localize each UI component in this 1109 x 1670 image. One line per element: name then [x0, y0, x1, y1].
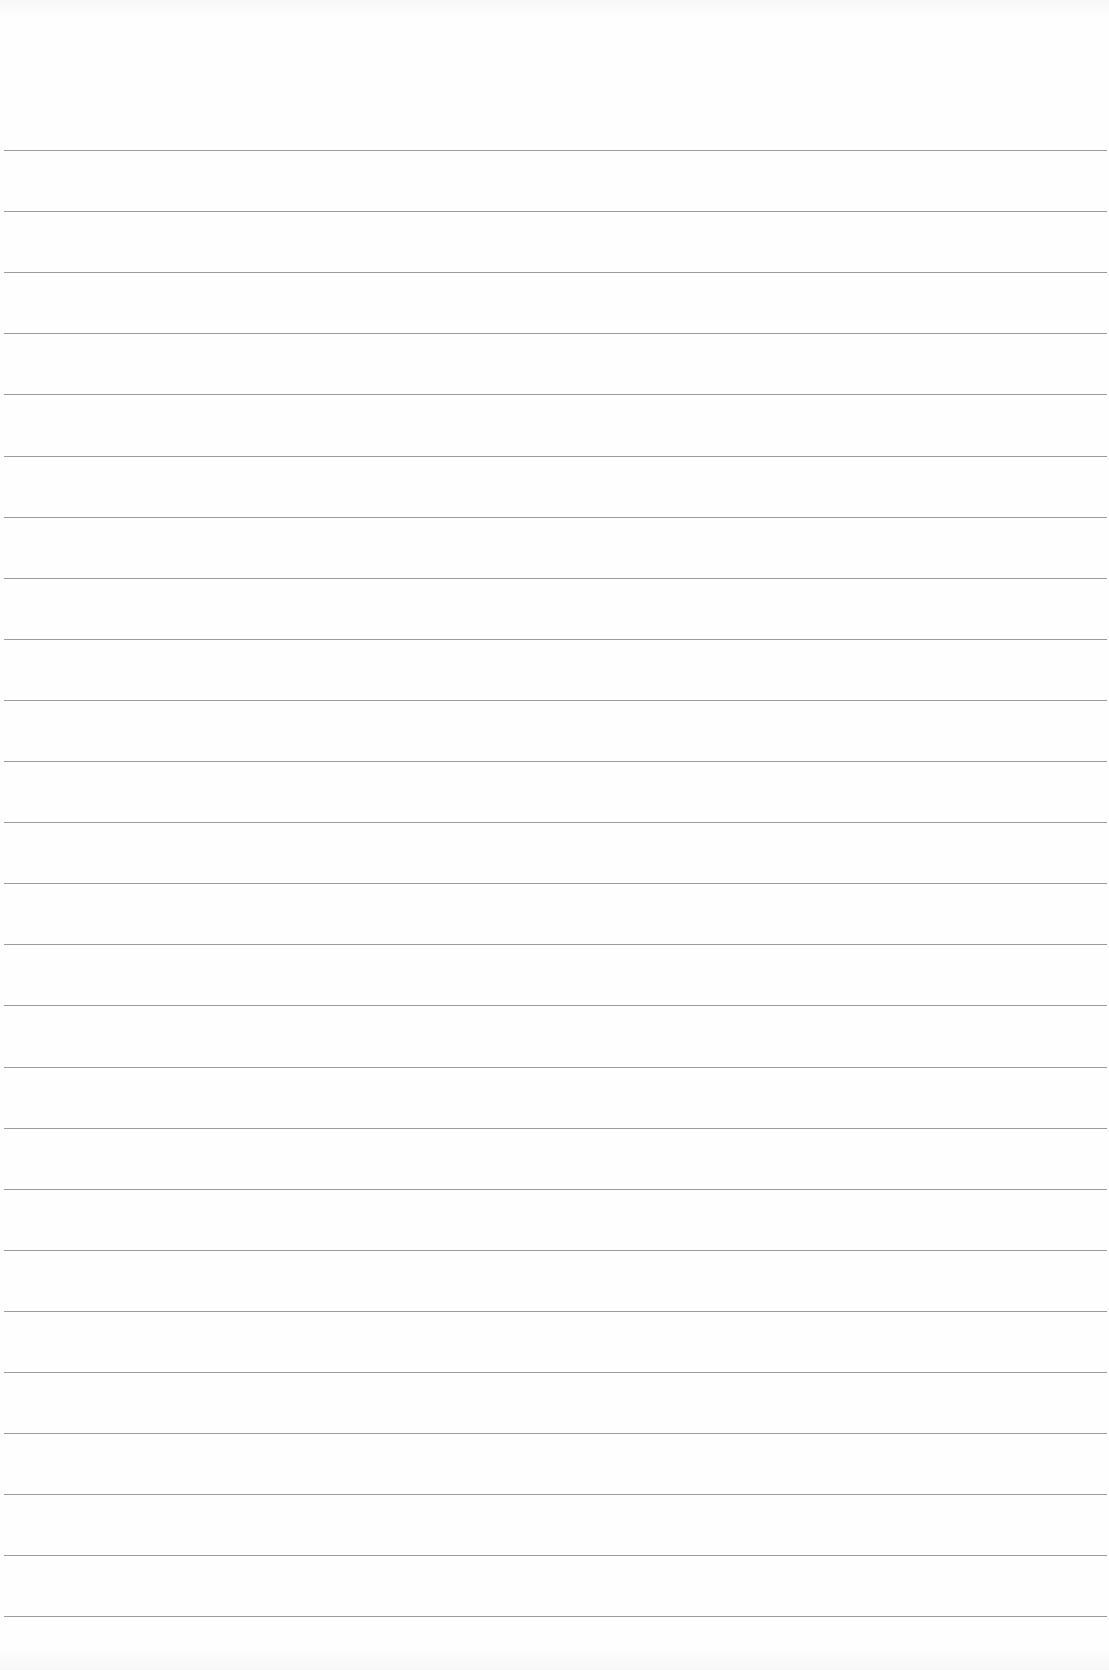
ruled-line	[4, 1372, 1107, 1373]
ruled-line	[4, 1494, 1107, 1495]
ruled-line	[4, 211, 1107, 212]
ruled-line	[4, 761, 1107, 762]
ruled-line	[4, 944, 1107, 945]
ruled-line	[4, 700, 1107, 701]
ruled-line	[4, 1067, 1107, 1068]
ruled-line	[4, 883, 1107, 884]
ruled-line	[4, 456, 1107, 457]
ruled-line	[4, 1189, 1107, 1190]
ruled-line	[4, 578, 1107, 579]
ruled-line	[4, 1311, 1107, 1312]
lined-paper-sheet	[0, 0, 1109, 1670]
ruled-line	[4, 1005, 1107, 1006]
ruled-line	[4, 517, 1107, 518]
ruled-line	[4, 639, 1107, 640]
ruled-line	[4, 1616, 1107, 1617]
ruled-line	[4, 822, 1107, 823]
top-edge-shadow	[0, 0, 1109, 18]
ruled-line	[4, 1128, 1107, 1129]
ruled-line	[4, 333, 1107, 334]
ruled-line	[4, 394, 1107, 395]
ruled-line	[4, 1433, 1107, 1434]
ruled-line	[4, 1250, 1107, 1251]
ruled-line	[4, 150, 1107, 151]
ruled-line	[4, 272, 1107, 273]
ruled-line	[4, 1555, 1107, 1556]
bottom-edge-shadow	[0, 1648, 1109, 1670]
